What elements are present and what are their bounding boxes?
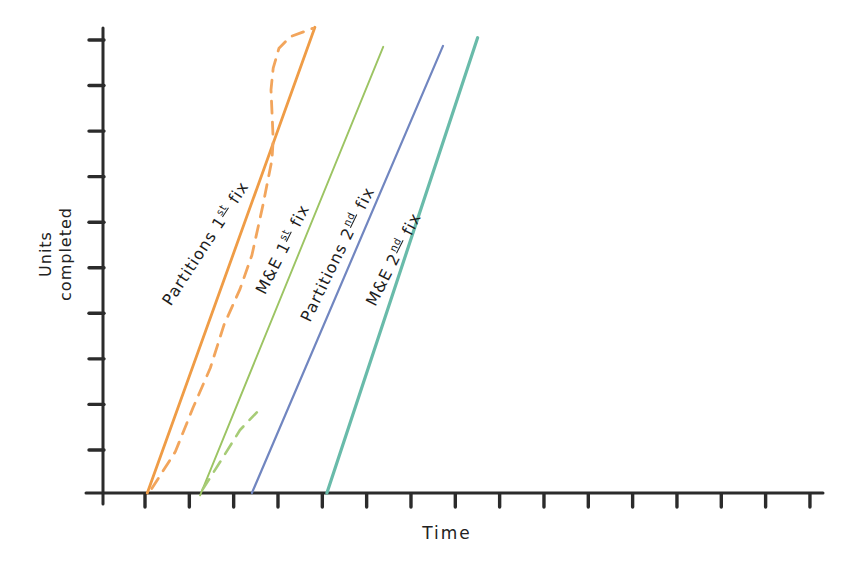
x-axis-title: Time: [422, 523, 472, 543]
line-of-balance-chart: Units completed Time Partitions 1st fixM…: [0, 0, 861, 570]
series-line-partitions-1st-planned: [147, 27, 315, 493]
y-axis-title-line2: completed: [56, 207, 76, 301]
y-axis-title: Units completed: [36, 207, 76, 301]
chart-plot-svg: [0, 0, 861, 570]
y-axis-title-line1: Units: [36, 207, 56, 301]
